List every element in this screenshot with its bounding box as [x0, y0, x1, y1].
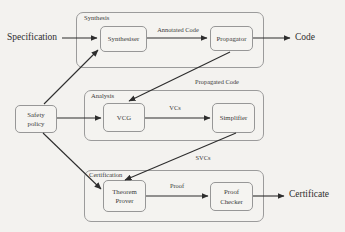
node-proof-checker: Proof Checker — [210, 182, 253, 211]
group-synthesis-label: Synthesis — [84, 15, 109, 22]
label-certificate: Certificate — [289, 190, 329, 200]
label-specification: Specification — [7, 33, 57, 43]
node-propagator: Propagator — [210, 26, 253, 51]
node-synthesiser: Synthesiser — [100, 26, 147, 52]
edge-label-vcs: VCs — [160, 105, 190, 111]
edge-label-proof: Proof — [161, 183, 193, 189]
label-code: Code — [295, 33, 315, 43]
edge-label-svcs: SVCs — [189, 155, 217, 161]
edge-label-annotated-code: Annotated Code — [150, 27, 206, 33]
node-simplifier: Simplifier — [212, 103, 255, 133]
edge-label-propagated-code: Propagated Code — [188, 79, 246, 85]
group-certification-label: Certification — [89, 172, 122, 179]
group-analysis-label: Analysis — [91, 93, 114, 100]
node-safety-policy: Safety policy — [15, 105, 57, 133]
node-vcg: VCG — [103, 103, 145, 132]
diagram-canvas: Synthesis Analysis Certification Synthes… — [0, 0, 345, 232]
node-theorem-prover: Theorem Prover — [103, 180, 146, 212]
